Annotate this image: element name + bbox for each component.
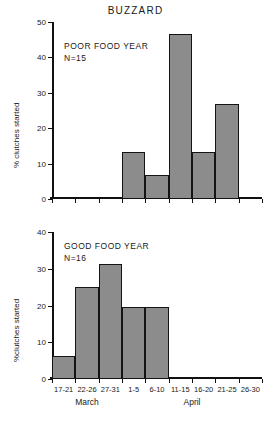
y-axis-tick bbox=[48, 93, 52, 94]
x-axis-tick-label: 11-15 bbox=[171, 385, 190, 394]
y-axis-tick-label: 0 bbox=[42, 195, 46, 204]
x-axis-tick bbox=[99, 199, 100, 203]
bar-21-25 bbox=[215, 104, 238, 199]
x-axis-tick bbox=[262, 379, 263, 383]
bar-22-26 bbox=[75, 287, 98, 379]
bar-27-31 bbox=[99, 264, 122, 379]
x-axis-tick bbox=[262, 199, 263, 203]
bar-11-15 bbox=[169, 34, 192, 199]
plot-area-top: 01020304050 bbox=[52, 22, 262, 199]
x-axis-tick bbox=[75, 199, 76, 203]
y-axis-label-bottom: %clutches started bbox=[12, 299, 21, 362]
y-axis-label-top: % clutches started bbox=[12, 103, 21, 168]
y-axis-tick-label: 40 bbox=[37, 53, 46, 62]
bar-16-20 bbox=[192, 152, 215, 199]
x-axis-tick-label: 21-25 bbox=[217, 385, 236, 394]
month-label-april: April bbox=[183, 397, 200, 407]
bar-6-10 bbox=[145, 307, 168, 379]
x-axis-tick bbox=[215, 199, 216, 203]
x-axis-tick bbox=[192, 199, 193, 203]
y-axis-tick bbox=[48, 164, 52, 165]
x-axis-tick bbox=[239, 199, 240, 203]
y-axis-tick-label: 20 bbox=[37, 124, 46, 133]
y-axis-tick bbox=[48, 342, 52, 343]
x-axis-tick bbox=[169, 199, 170, 203]
x-axis-tick bbox=[145, 379, 146, 383]
panel-poor-food-year: % clutches started POOR FOOD YEAR N=15 0… bbox=[0, 18, 271, 204]
x-axis-tick bbox=[239, 379, 240, 383]
x-axis-tick-label: 6-10 bbox=[149, 385, 164, 394]
x-axis-tick-label: 22-26 bbox=[77, 385, 96, 394]
bar-1-5 bbox=[122, 152, 145, 199]
plot-area-bottom: 01020304017-2122-2627-311-56-1011-1516-2… bbox=[52, 232, 262, 379]
y-axis-top bbox=[52, 22, 54, 199]
panel-good-food-year: %clutches started GOOD FOOD YEAR N=16 01… bbox=[0, 228, 271, 386]
y-axis-tick bbox=[48, 306, 52, 307]
x-axis-tick bbox=[145, 199, 146, 203]
y-axis-tick-label: 10 bbox=[37, 338, 46, 347]
bar-6-10 bbox=[145, 175, 168, 199]
x-axis-tick-label: 17-21 bbox=[54, 385, 73, 394]
y-axis-tick bbox=[48, 128, 52, 129]
month-label-march: March bbox=[75, 397, 99, 407]
y-axis-tick bbox=[48, 232, 52, 233]
x-axis-tick bbox=[192, 379, 193, 383]
y-axis-tick-label: 50 bbox=[37, 18, 46, 27]
y-axis-tick bbox=[48, 22, 52, 23]
x-axis-tick-label: 1-5 bbox=[128, 385, 139, 394]
buzzard-clutch-start-figure: BUZZARD % clutches started POOR FOOD YEA… bbox=[0, 0, 271, 421]
x-axis-tick-label: 16-20 bbox=[194, 385, 213, 394]
x-axis-tick bbox=[52, 199, 53, 203]
bar-17-21 bbox=[52, 356, 75, 379]
x-axis-tick bbox=[75, 379, 76, 383]
y-axis-tick-label: 0 bbox=[42, 375, 46, 384]
y-axis-tick-label: 40 bbox=[37, 228, 46, 237]
x-axis-tick bbox=[169, 379, 170, 383]
x-axis-tick bbox=[122, 199, 123, 203]
x-axis-tick-label: 26-30 bbox=[241, 385, 260, 394]
chart-title: BUZZARD bbox=[0, 5, 271, 16]
y-axis-tick-label: 20 bbox=[37, 301, 46, 310]
y-axis-tick-label: 10 bbox=[37, 159, 46, 168]
x-axis-tick bbox=[99, 379, 100, 383]
y-axis-tick-label: 30 bbox=[37, 264, 46, 273]
x-axis-tick bbox=[52, 379, 53, 383]
x-axis-tick bbox=[122, 379, 123, 383]
y-axis-tick bbox=[48, 57, 52, 58]
y-axis-tick bbox=[48, 269, 52, 270]
y-axis-tick-label: 30 bbox=[37, 88, 46, 97]
x-axis-tick-label: 27-31 bbox=[101, 385, 120, 394]
bar-1-5 bbox=[122, 307, 145, 379]
x-axis-tick bbox=[215, 379, 216, 383]
